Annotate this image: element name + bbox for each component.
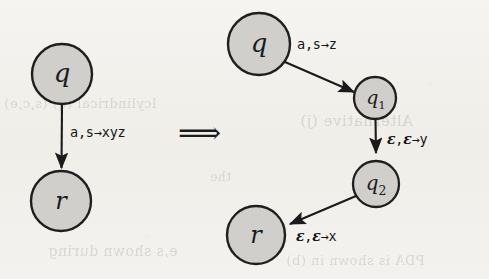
node-q-left bbox=[32, 44, 92, 104]
edge-q1-to-q2 bbox=[376, 119, 377, 153]
edge-q-to-q1 bbox=[285, 62, 354, 92]
edge-q2-to-r bbox=[290, 196, 356, 224]
node-r-left bbox=[31, 171, 91, 231]
right-diagram-group bbox=[227, 13, 399, 264]
left-diagram-group bbox=[31, 44, 92, 231]
node-q-right bbox=[228, 13, 290, 75]
pda-transition-figure: lcylindrical (q) (s,c,e)e,s shown during… bbox=[0, 0, 489, 279]
node-r-right bbox=[227, 206, 285, 264]
node-q1 bbox=[354, 77, 396, 119]
edge-q-to-r-left bbox=[62, 105, 63, 168]
node-q2 bbox=[353, 161, 399, 207]
diagram-vector-layer bbox=[0, 0, 489, 279]
